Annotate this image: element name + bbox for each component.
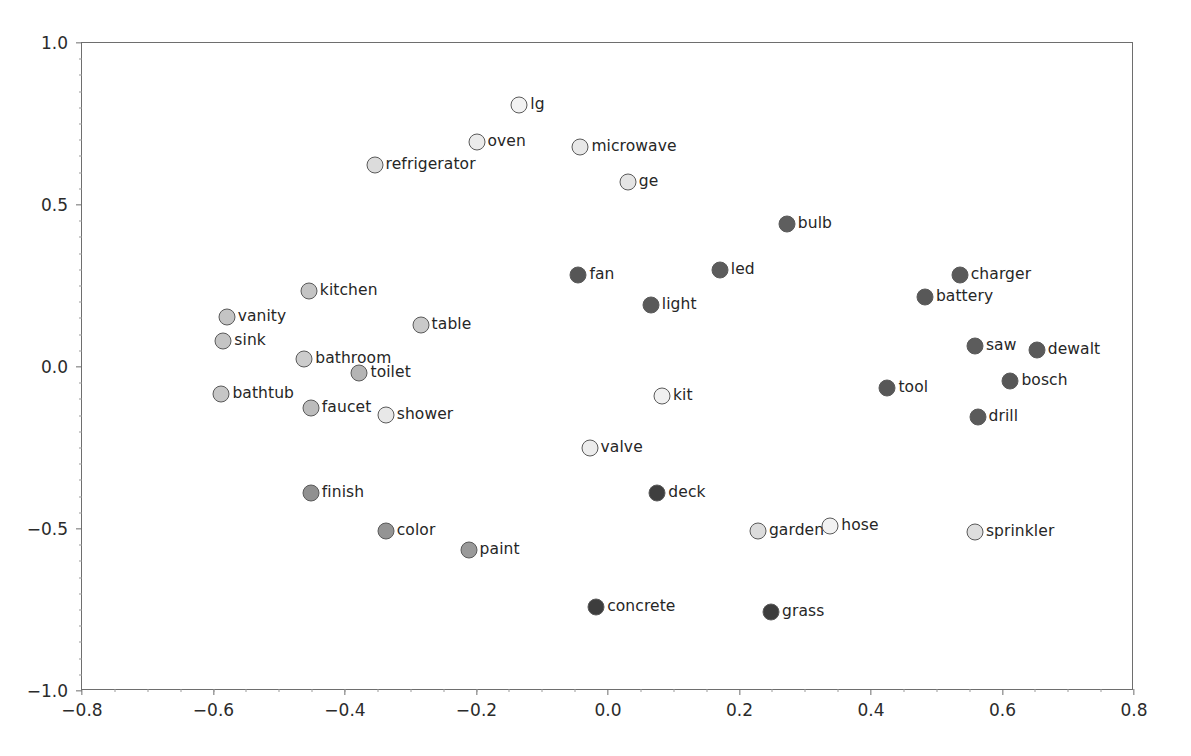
data-point-label-table: table bbox=[432, 315, 472, 333]
data-point-label-light: light bbox=[662, 295, 697, 313]
x-tick-label: 0.4 bbox=[857, 700, 884, 720]
data-point-bathtub bbox=[213, 385, 230, 402]
y-minor-tick bbox=[79, 593, 82, 594]
data-point-grass bbox=[763, 603, 780, 620]
data-point-label-saw: saw bbox=[986, 336, 1017, 354]
data-point-concrete bbox=[588, 598, 605, 615]
data-point-light bbox=[642, 297, 659, 314]
data-point-label-lg: lg bbox=[530, 95, 544, 113]
x-minor-tick bbox=[246, 689, 247, 692]
x-minor-tick bbox=[1035, 689, 1036, 692]
data-point-charger bbox=[951, 266, 968, 283]
y-minor-tick bbox=[79, 269, 82, 270]
data-point-faucet bbox=[302, 399, 319, 416]
data-point-label-garden: garden bbox=[769, 521, 824, 539]
data-point-fan bbox=[570, 266, 587, 283]
data-point-hose bbox=[822, 517, 839, 534]
data-point-label-toilet: toilet bbox=[370, 363, 410, 381]
x-minor-tick bbox=[443, 689, 444, 692]
y-minor-tick bbox=[79, 448, 82, 449]
data-point-label-ge: ge bbox=[639, 172, 659, 190]
x-tick-label: 0.8 bbox=[1120, 700, 1147, 720]
y-tick-label: 0.0 bbox=[41, 357, 68, 377]
data-point-led bbox=[711, 261, 728, 278]
data-point-kitchen bbox=[300, 282, 317, 299]
y-minor-tick bbox=[79, 561, 82, 562]
data-point-label-sink: sink bbox=[234, 331, 266, 349]
data-point-label-faucet: faucet bbox=[322, 398, 372, 416]
y-minor-tick bbox=[79, 140, 82, 141]
data-point-label-color: color bbox=[397, 521, 436, 539]
y-minor-tick bbox=[79, 237, 82, 238]
data-point-label-bathtub: bathtub bbox=[232, 384, 294, 402]
x-tick-mark bbox=[739, 689, 740, 695]
data-point-label-deck: deck bbox=[668, 483, 705, 501]
y-minor-tick bbox=[79, 124, 82, 125]
x-minor-tick bbox=[640, 689, 641, 692]
y-minor-tick bbox=[79, 642, 82, 643]
data-point-dewalt bbox=[1028, 342, 1045, 359]
data-point-label-charger: charger bbox=[971, 265, 1031, 283]
data-point-label-paint: paint bbox=[480, 540, 520, 558]
data-point-label-grass: grass bbox=[782, 602, 824, 620]
x-minor-tick bbox=[377, 689, 378, 692]
data-point-label-fan: fan bbox=[589, 265, 614, 283]
y-minor-tick bbox=[79, 221, 82, 222]
x-minor-tick bbox=[312, 689, 313, 692]
y-minor-tick bbox=[79, 545, 82, 546]
y-tick-label: −1.0 bbox=[27, 681, 68, 701]
x-minor-tick bbox=[279, 689, 280, 692]
data-point-label-kit: kit bbox=[673, 386, 693, 404]
x-tick-label: −0.8 bbox=[61, 700, 102, 720]
data-point-valve bbox=[581, 440, 598, 457]
data-point-vanity bbox=[218, 308, 235, 325]
y-tick-label: 1.0 bbox=[41, 33, 68, 53]
x-tick-label: 0.6 bbox=[989, 700, 1016, 720]
x-tick-mark bbox=[870, 689, 871, 695]
data-point-label-refrigerator: refrigerator bbox=[386, 155, 476, 173]
data-point-label-concrete: concrete bbox=[607, 597, 675, 615]
data-point-label-battery: battery bbox=[936, 287, 993, 305]
x-tick-label: 0.2 bbox=[726, 700, 753, 720]
x-minor-tick bbox=[805, 689, 806, 692]
y-tick-mark bbox=[76, 690, 82, 691]
x-minor-tick bbox=[1068, 689, 1069, 692]
data-point-label-bosch: bosch bbox=[1021, 371, 1067, 389]
data-point-label-shower: shower bbox=[397, 405, 454, 423]
y-minor-tick bbox=[79, 188, 82, 189]
y-minor-tick bbox=[79, 91, 82, 92]
y-minor-tick bbox=[79, 480, 82, 481]
x-minor-tick bbox=[1101, 689, 1102, 692]
data-point-saw bbox=[966, 337, 983, 354]
x-tick-mark bbox=[607, 689, 608, 695]
data-point-lg bbox=[511, 96, 528, 113]
data-point-label-vanity: vanity bbox=[238, 307, 287, 325]
x-minor-tick bbox=[969, 689, 970, 692]
y-tick-mark bbox=[76, 528, 82, 529]
y-minor-tick bbox=[79, 334, 82, 335]
y-minor-tick bbox=[79, 415, 82, 416]
y-minor-tick bbox=[79, 674, 82, 675]
y-tick-mark bbox=[76, 366, 82, 367]
y-minor-tick bbox=[79, 496, 82, 497]
x-minor-tick bbox=[673, 689, 674, 692]
data-point-label-oven: oven bbox=[488, 132, 526, 150]
data-point-garden bbox=[749, 522, 766, 539]
data-point-refrigerator bbox=[366, 156, 383, 173]
x-tick-label: −0.6 bbox=[193, 700, 234, 720]
x-tick-mark bbox=[1002, 689, 1003, 695]
data-point-label-hose: hose bbox=[841, 516, 878, 534]
data-point-label-led: led bbox=[731, 260, 755, 278]
y-minor-tick bbox=[79, 610, 82, 611]
scatter-plot-figure: lgovenmicrowaverefrigeratorgebulbfanledc… bbox=[0, 0, 1191, 756]
x-minor-tick bbox=[509, 689, 510, 692]
data-point-table bbox=[412, 316, 429, 333]
x-minor-tick bbox=[476, 689, 477, 692]
x-minor-tick bbox=[114, 689, 115, 692]
data-point-label-sprinkler: sprinkler bbox=[986, 522, 1055, 540]
y-minor-tick bbox=[79, 318, 82, 319]
data-point-label-drill: drill bbox=[989, 407, 1019, 425]
y-tick-label: 0.5 bbox=[41, 195, 68, 215]
data-point-bosch bbox=[1002, 372, 1019, 389]
y-minor-tick bbox=[79, 172, 82, 173]
